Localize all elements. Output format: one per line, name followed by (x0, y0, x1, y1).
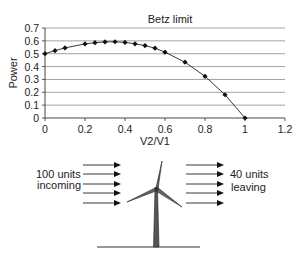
chart-title: Betz limit (148, 13, 193, 25)
leaving-label-line1: 40 units (230, 168, 269, 180)
betz-chart: Betz limit00.10.20.30.40.50.60.700.20.40… (7, 13, 292, 147)
y-axis-label: Power (7, 57, 19, 89)
data-point-marker (142, 43, 147, 48)
betz-figure: Betz limit00.10.20.30.40.50.60.700.20.40… (0, 0, 303, 260)
leaving-label-line2: leaving (231, 181, 266, 193)
x-tick-label: 0.8 (198, 123, 213, 135)
turbine-diagram: 100 units incoming 40 units leaving (36, 161, 269, 247)
x-tick-label: 1 (242, 123, 248, 135)
incoming-arrows (83, 162, 121, 206)
x-tick-label: 0 (42, 123, 48, 135)
data-point-marker (42, 51, 47, 56)
series-line (45, 42, 245, 118)
y-tick-label: 0.1 (24, 99, 39, 111)
x-tick-label: 1.2 (278, 123, 293, 135)
x-tick-label: 0.4 (118, 123, 133, 135)
x-tick-label: 0.6 (158, 123, 173, 135)
incoming-label-line2: incoming (37, 179, 81, 191)
data-point-marker (112, 39, 117, 44)
data-point-marker (132, 41, 137, 46)
y-tick-label: 0.7 (24, 22, 39, 34)
x-tick-label: 0.2 (78, 123, 93, 135)
y-tick-label: 0.6 (24, 35, 39, 47)
y-tick-label: 0.3 (24, 73, 39, 85)
y-tick-label: 0.2 (24, 86, 39, 98)
data-point-marker (102, 39, 107, 44)
y-tick-label: 0.4 (24, 61, 39, 73)
data-point-marker (62, 45, 67, 50)
turbine-tower-icon (154, 190, 160, 247)
x-axis-label: V2/V1 (140, 135, 170, 147)
leaving-arrows (186, 162, 224, 206)
data-point-marker (82, 41, 87, 46)
y-tick-label: 0.5 (24, 48, 39, 60)
y-tick-label: 0 (33, 112, 39, 124)
data-point-marker (152, 46, 157, 51)
data-point-marker (52, 48, 57, 53)
